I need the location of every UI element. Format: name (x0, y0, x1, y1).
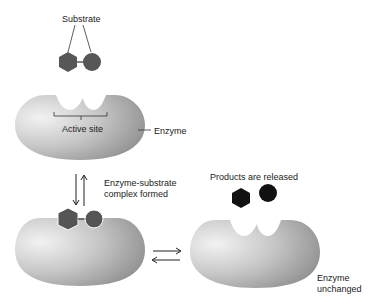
hexagon-substrate-icon (59, 52, 77, 72)
diagram-canvas (0, 0, 375, 306)
substrate-label: Substrate (62, 14, 101, 24)
hexagon-bound-icon (58, 208, 78, 230)
horizontal-equilibrium-arrows-icon (152, 248, 181, 263)
substrate-molecule (59, 52, 101, 72)
enzyme-shape-unchanged (190, 220, 320, 288)
hexagon-product-icon (232, 188, 250, 208)
active-site-label: Active site (62, 124, 103, 134)
substrate-pointer-lines (68, 25, 91, 52)
circle-bound-icon (85, 210, 103, 228)
unchanged-label-line1: Enzyme (317, 273, 350, 283)
products-label: Products are released (210, 172, 298, 182)
complex-label-line2: complex formed (104, 189, 168, 199)
unchanged-label-line2: unchanged (317, 284, 362, 294)
enzyme-shape-complex (15, 218, 145, 286)
vertical-equilibrium-arrows-icon (73, 174, 87, 206)
enzyme-label: Enzyme (154, 126, 187, 136)
circle-substrate-icon (83, 53, 101, 71)
complex-label-line1: Enzyme-substrate (104, 178, 177, 188)
circle-product-icon (259, 184, 277, 202)
